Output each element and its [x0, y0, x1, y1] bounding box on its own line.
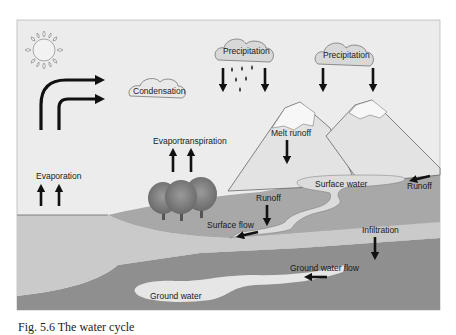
label-infiltration: Infiltration	[362, 226, 399, 235]
label-surface-water: Surface water	[315, 180, 367, 189]
label-evapotranspiration: Evaportranspiration	[153, 137, 227, 146]
label-ground-water-flow: Ground water flow	[290, 264, 359, 273]
label-condensation: Condensation	[133, 87, 185, 96]
label-melt-runoff: Melt runoff	[271, 129, 311, 138]
label-evaporation: Evaporation	[36, 172, 81, 181]
sun-icon	[25, 31, 63, 69]
label-precipitation-1: Precipitation	[223, 47, 270, 56]
label-runoff-right: Runoff	[407, 182, 432, 191]
label-runoff-center: Runoff	[256, 194, 281, 203]
label-precipitation-2: Precipitation	[323, 51, 370, 60]
label-ground-water: Ground water	[150, 292, 202, 301]
figure-caption: Fig. 5.6 The water cycle	[18, 320, 134, 335]
label-surface-flow: Surface flow	[207, 221, 254, 230]
